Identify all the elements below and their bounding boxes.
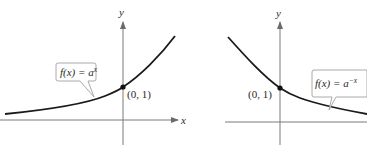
right-graph: y (0, 1) f(x) = a−x: [225, 7, 367, 145]
right-function-label: f(x) = a: [315, 77, 349, 90]
exponential-graphs-figure: x y (0, 1) f(x) = ax y (0, 1) f(x) = a−x: [0, 0, 367, 151]
right-function-exponent: −x: [349, 76, 358, 85]
left-point-0-1: [120, 84, 125, 89]
left-function-label: f(x) = a: [60, 66, 94, 79]
left-point-label: (0, 1): [127, 88, 151, 101]
left-x-axis-label: x: [180, 114, 186, 126]
right-y-axis-label: y: [275, 7, 281, 19]
svg-text:f(x) = ax: f(x) = ax: [60, 65, 98, 79]
right-point-0-1: [277, 85, 282, 90]
left-function-callout: f(x) = ax: [56, 63, 98, 97]
right-point-label: (0, 1): [248, 88, 272, 101]
left-graph: x y (0, 1) f(x) = ax: [0, 6, 186, 145]
left-y-axis-label: y: [118, 6, 124, 18]
left-function-exponent: x: [93, 65, 98, 74]
